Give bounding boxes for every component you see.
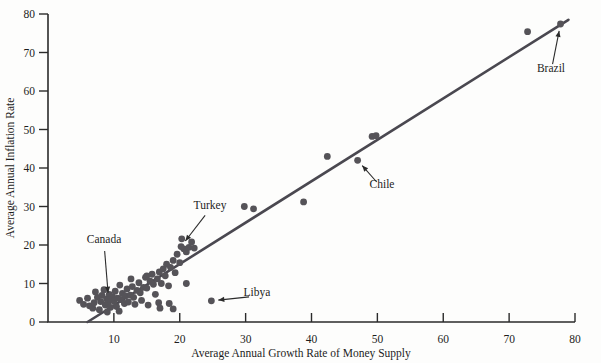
data-point: [167, 264, 174, 271]
y-tick-label-40: 40: [24, 162, 36, 174]
data-point: [143, 285, 150, 292]
data-point: [178, 235, 185, 242]
x-tick-label-20: 20: [174, 333, 186, 345]
axis-spines: [48, 14, 575, 322]
x-tick-label-60: 60: [438, 333, 450, 345]
data-point-libya: [208, 297, 215, 304]
data-point: [104, 309, 111, 316]
data-point: [158, 280, 165, 287]
data-point: [145, 302, 152, 309]
data-point: [96, 306, 103, 313]
data-point-canada: [105, 296, 112, 303]
data-point: [172, 269, 179, 276]
x-tick-label-80: 80: [569, 333, 581, 345]
y-axis-title: Average Annual Inflation Rate: [4, 98, 17, 239]
data-point: [143, 272, 150, 279]
data-point: [152, 291, 159, 298]
data-point: [138, 297, 145, 304]
data-point: [524, 28, 531, 35]
y-tick-label-0: 0: [29, 316, 35, 328]
tick-marks: [39, 14, 575, 322]
y-tick-label-70: 70: [24, 47, 36, 59]
annotation-label-libya: Libya: [244, 286, 271, 299]
data-point: [373, 132, 380, 139]
chart-canvas: 010203040506070801020304050607080 Canada…: [0, 0, 601, 363]
data-point: [128, 275, 135, 282]
x-tick-label-30: 30: [240, 333, 252, 345]
data-point: [183, 280, 190, 287]
data-point: [162, 272, 169, 279]
y-tick-label-80: 80: [24, 8, 36, 20]
annotation-label-brazil: Brazil: [537, 62, 565, 74]
data-point: [112, 288, 119, 295]
data-point: [188, 239, 195, 246]
data-point-chile: [354, 157, 361, 164]
data-point: [116, 308, 123, 315]
x-tick-label-50: 50: [372, 333, 384, 345]
data-point: [132, 301, 139, 308]
data-point-turkey: [178, 243, 185, 250]
data-point: [324, 153, 331, 160]
x-tick-label-10: 10: [108, 333, 120, 345]
data-point: [170, 257, 177, 264]
data-point: [165, 282, 172, 289]
x-tick-label-70: 70: [503, 333, 515, 345]
x-tick-label-40: 40: [306, 333, 318, 345]
data-point: [130, 294, 137, 301]
annotation-label-chile: Chile: [370, 178, 395, 190]
data-point: [300, 198, 307, 205]
axes: [48, 14, 575, 322]
data-point: [125, 299, 132, 306]
data-point: [80, 301, 87, 308]
leader-arrowhead-brazil: [555, 31, 560, 37]
x-axis-title: Average Annual Growth Rate of Money Supp…: [191, 347, 411, 360]
y-tick-label-20: 20: [24, 239, 36, 251]
data-point: [250, 205, 257, 212]
data-point-brazil: [557, 21, 564, 28]
data-point: [170, 306, 177, 313]
annotation-label-canada: Canada: [87, 233, 121, 245]
y-tick-label-10: 10: [24, 278, 36, 290]
annotation-label-turkey: Turkey: [194, 199, 227, 212]
leader-line-canada: [105, 251, 108, 293]
y-tick-label-30: 30: [24, 201, 36, 213]
data-point: [157, 305, 164, 312]
data-point: [116, 282, 123, 289]
data-point: [191, 245, 198, 252]
y-tick-label-50: 50: [24, 124, 36, 136]
data-points: [76, 21, 564, 316]
data-point: [176, 259, 183, 266]
point-annotations: CanadaTurkeyLibyaChileBrazil: [87, 31, 565, 302]
y-tick-label-60: 60: [24, 85, 36, 97]
data-point: [84, 295, 91, 302]
data-point: [174, 251, 181, 258]
data-point: [241, 203, 248, 210]
scatter-plot-figure: 010203040506070801020304050607080 Canada…: [0, 0, 601, 363]
